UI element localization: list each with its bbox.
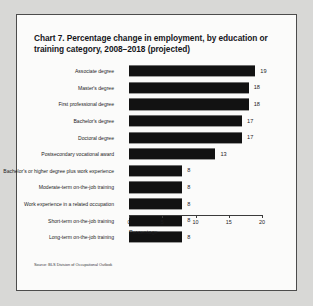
x-axis-tick <box>262 215 263 218</box>
bar-track: 8 <box>129 165 262 176</box>
bar-value-label: 17 <box>247 135 253 141</box>
x-axis-tick-label: 10 <box>193 219 199 225</box>
bar-category-label: Master's degree <box>0 85 114 91</box>
x-axis-tick <box>129 215 130 218</box>
bar-row: Work experience in a related occupation8 <box>17 196 296 213</box>
bar-value-label: 8 <box>187 201 190 207</box>
bar-row: First professional degree18 <box>17 96 296 113</box>
x-axis-tick-label: 0 <box>128 219 131 225</box>
bar-category-label: Bachelor's degree <box>0 118 114 124</box>
bar-row: Bachelor's or higher degree plus work ex… <box>17 163 296 180</box>
bar-fill <box>129 115 242 126</box>
bar-value-label: 8 <box>187 218 190 224</box>
x-axis-tick-label: 5 <box>161 219 164 225</box>
bar-value-label: 17 <box>247 118 253 124</box>
bar-category-label: Moderate-term on-the-job training <box>0 184 114 190</box>
bar-track: 17 <box>129 132 262 143</box>
bar-value-label: 8 <box>187 184 190 190</box>
bar-category-label: Associate degree <box>0 68 114 74</box>
bar-category-label: First professional degree <box>0 101 114 107</box>
x-axis-tick-label: 20 <box>259 219 265 225</box>
bar-track: 8 <box>129 198 262 209</box>
x-axis-tick <box>162 215 163 218</box>
bar-fill <box>129 99 249 110</box>
bar-value-label: 18 <box>254 101 260 107</box>
bar-category-label: Work experience in a related occupation <box>0 201 114 207</box>
bar-fill <box>129 149 215 160</box>
bar-value-label: 8 <box>187 168 190 174</box>
bar-row: Associate degree19 <box>17 63 296 80</box>
source-note: Source: BLS Division of Occupational Out… <box>34 262 112 267</box>
x-axis-tick-label: 15 <box>226 219 232 225</box>
bar-category-label: Bachelor's or higher degree plus work ex… <box>0 168 114 174</box>
bar-fill <box>129 182 182 193</box>
bar-category-label: Postsecondary vocational award <box>0 151 114 157</box>
chart-figure-frame: Chart 7. Percentage change in employment… <box>16 14 297 291</box>
bar-row: Postsecondary vocational award13 <box>17 146 296 163</box>
bar-value-label: 13 <box>220 151 226 157</box>
bar-fill <box>129 82 249 93</box>
x-axis-tick <box>229 215 230 218</box>
bar-fill <box>129 198 182 209</box>
bar-value-label: 18 <box>254 85 260 91</box>
bar-category-label: Doctoral degree <box>0 135 114 141</box>
bar-value-label: 19 <box>260 68 266 74</box>
bar-value-label: 8 <box>187 234 190 240</box>
bar-row: Bachelor's degree17 <box>17 113 296 130</box>
bar-category-label: Long-term on-the-job training <box>0 234 114 240</box>
bar-track: 17 <box>129 115 262 126</box>
bar-fill <box>129 215 182 226</box>
bar-track: 13 <box>129 149 262 160</box>
chart-title: Chart 7. Percentage change in employment… <box>34 33 281 56</box>
bar-row: Master's degree18 <box>17 80 296 97</box>
x-axis-title: Percentage <box>129 229 158 235</box>
bar-track: 19 <box>129 66 262 77</box>
x-axis-tick <box>196 215 197 218</box>
bar-track: 8 <box>129 182 262 193</box>
bar-category-label: Short-term on-the-job training <box>0 218 114 224</box>
bar-fill <box>129 66 255 77</box>
bar-fill <box>129 132 242 143</box>
bar-fill <box>129 165 182 176</box>
bar-row: Moderate-term on-the-job training8 <box>17 179 296 196</box>
bar-track: 18 <box>129 82 262 93</box>
bar-row: Doctoral degree17 <box>17 129 296 146</box>
bar-track: 18 <box>129 99 262 110</box>
